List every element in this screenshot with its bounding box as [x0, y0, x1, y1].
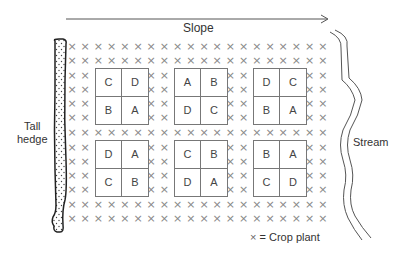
crop-plant-icon: × [67, 156, 77, 167]
crop-plant-icon: × [199, 41, 209, 52]
crop-plant-icon: × [239, 84, 249, 95]
plot-cell: B [122, 169, 148, 197]
crop-plant-icon: × [318, 41, 328, 52]
crop-plant-icon: × [199, 127, 209, 138]
crop-plant-icon: × [252, 127, 262, 138]
plot-cell: A [175, 69, 201, 97]
crop-plant-icon: × [252, 199, 262, 210]
crop-plant-icon: × [93, 41, 103, 52]
crop-plant-icon: × [107, 55, 117, 66]
crop-plant-icon: × [318, 142, 328, 153]
plot-bottom-middle: C B D A [174, 140, 228, 197]
crop-plant-icon: × [107, 199, 117, 210]
crop-plant-icon: × [291, 127, 301, 138]
plot-cell: B [254, 141, 280, 169]
crop-plant-icon: × [252, 41, 262, 52]
plot-cell: B [254, 97, 280, 125]
crop-plant-icon: × [107, 127, 117, 138]
crop-plant-icon: × [133, 41, 143, 52]
stream-label: Stream [353, 136, 388, 148]
crop-plant-icon: × [133, 199, 143, 210]
crop-plant-icon: × [318, 213, 328, 224]
crop-plant-icon: × [67, 70, 77, 81]
crop-plant-icon: × [239, 112, 249, 123]
crop-plant-icon: × [133, 55, 143, 66]
crop-plant-icon: × [318, 170, 328, 181]
crop-plant-icon: × [305, 199, 315, 210]
crop-plant-icon: × [67, 112, 77, 123]
crop-plant-icon: × [159, 41, 169, 52]
crop-plant-icon: × [120, 127, 130, 138]
crop-plant-icon: × [212, 199, 222, 210]
crop-plant-icon: × [318, 184, 328, 195]
crop-plant-icon: × [67, 98, 77, 109]
crop-plant-icon: × [186, 127, 196, 138]
crop-plant-icon: × [225, 213, 235, 224]
crop-plant-icon: × [186, 213, 196, 224]
crop-plant-icon: × [225, 41, 235, 52]
crop-plant-icon: × [305, 55, 315, 66]
plot-cell: C [175, 141, 201, 169]
crop-plant-icon: × [67, 184, 77, 195]
crop-plant-icon: × [239, 156, 249, 167]
crop-plant-icon: × [80, 112, 90, 123]
crop-plant-icon: × [252, 55, 262, 66]
crop-plant-icon: × [80, 55, 90, 66]
crop-plant-icon: × [212, 55, 222, 66]
crop-plant-icon: × [107, 41, 117, 52]
plot-cell: D [122, 69, 148, 97]
crop-plant-icon: × [173, 199, 183, 210]
crop-plant-icon: × [67, 199, 77, 210]
crop-plant-icon: × [186, 199, 196, 210]
crop-plant-icon: × [212, 213, 222, 224]
crop-plant-icon: × [291, 55, 301, 66]
crop-plant-icon: × [252, 213, 262, 224]
plot-cell: D [175, 169, 201, 197]
crop-plant-icon: × [80, 127, 90, 138]
crop-plant-icon: × [318, 55, 328, 66]
crop-plant-icon: × [159, 84, 169, 95]
plot-cell: D [175, 97, 201, 125]
crop-plant-icon: × [318, 112, 328, 123]
crop-plant-icon: × [318, 84, 328, 95]
crop-plant-icon: × [120, 213, 130, 224]
crop-plant-icon: × [146, 55, 156, 66]
plot-cell: B [201, 69, 227, 97]
crop-plant-icon: × [80, 170, 90, 181]
crop-plant-icon: × [120, 55, 130, 66]
crop-plant-icon: × [278, 213, 288, 224]
crop-plant-icon: × [159, 213, 169, 224]
crop-plant-icon: × [225, 199, 235, 210]
crop-plant-icon: × [212, 41, 222, 52]
crop-plant-icon: × [265, 41, 275, 52]
crop-plant-icon: × [265, 213, 275, 224]
crop-plant-icon: × [239, 98, 249, 109]
crop-plant-icon: × [305, 127, 315, 138]
field-layout-diagram: Slope Tall hedge Stream ××××××××××××××××… [0, 0, 400, 255]
crop-plant-icon: × [318, 98, 328, 109]
crop-plant-icon: × [199, 213, 209, 224]
crop-plant-icon: × [67, 142, 77, 153]
crop-plant-icon: × [80, 156, 90, 167]
crop-plant-icon: × [159, 55, 169, 66]
crop-plant-icon: × [239, 199, 249, 210]
plot-cell: D [254, 69, 280, 97]
crop-plant-icon: × [67, 213, 77, 224]
plot-cell: B [96, 97, 122, 125]
crop-plant-icon: × [146, 41, 156, 52]
plot-top-right: D C B A [253, 68, 307, 125]
crop-plant-icon: × [291, 41, 301, 52]
crop-plant-icon: × [186, 55, 196, 66]
crop-plant-icon: × [80, 41, 90, 52]
crop-plant-icon: × [291, 213, 301, 224]
crop-plant-icon: × [173, 55, 183, 66]
crop-plant-icon: × [199, 55, 209, 66]
plot-cell: C [96, 169, 122, 197]
plot-cell: D [96, 141, 122, 169]
crop-plant-icon: × [291, 199, 301, 210]
crop-plant-icon: × [186, 41, 196, 52]
crop-plant-icon: × [133, 127, 143, 138]
crop-plant-icon: × [67, 55, 77, 66]
crop-plant-icon: × [278, 41, 288, 52]
plot-bottom-right: B A C D [253, 140, 307, 197]
